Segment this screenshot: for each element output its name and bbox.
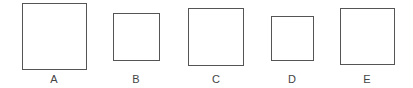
label-d: D	[282, 73, 302, 85]
label-c: C	[206, 73, 226, 85]
label-e: E	[357, 73, 377, 85]
square-a	[22, 3, 87, 70]
square-e	[340, 8, 395, 65]
label-b: B	[126, 73, 146, 85]
square-d	[271, 16, 314, 61]
square-b	[113, 13, 160, 61]
square-c	[188, 8, 244, 66]
label-a: A	[44, 73, 64, 85]
